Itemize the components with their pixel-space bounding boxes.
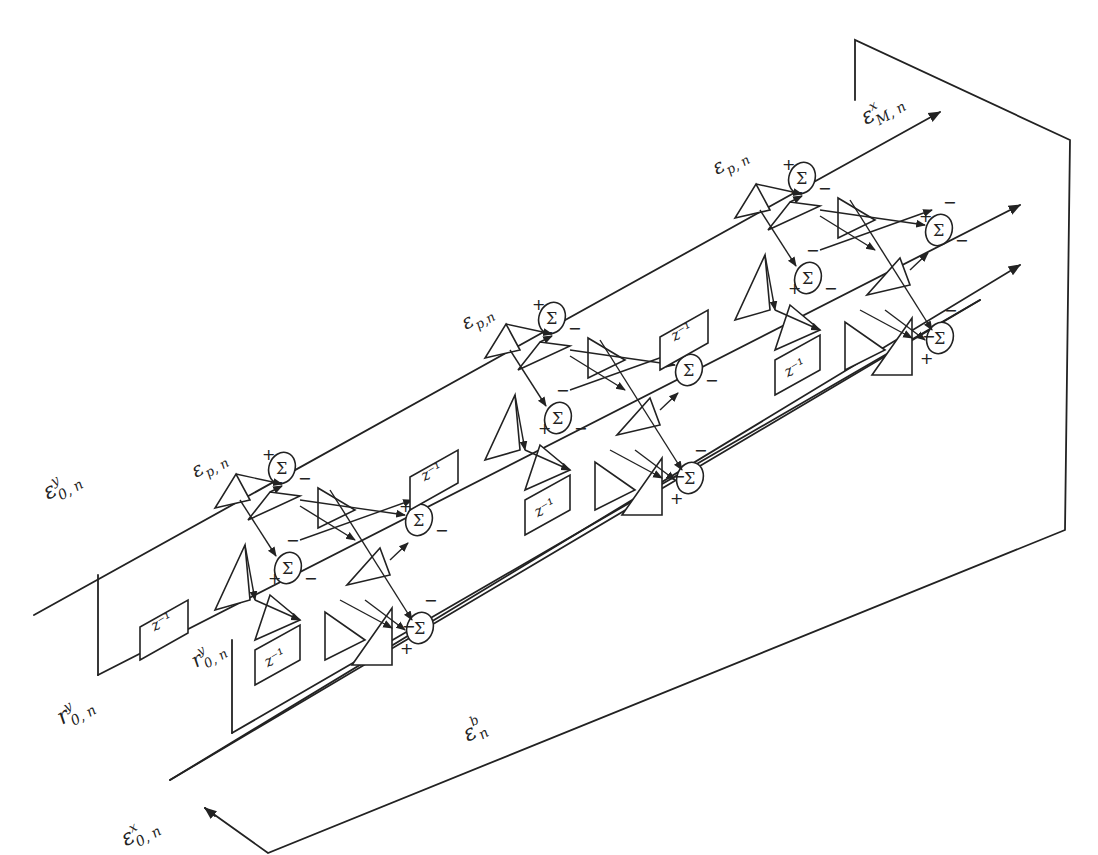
gain-triangle — [215, 474, 250, 508]
label-input-forward-x: εx0, n — [115, 809, 163, 855]
label-output-forward-x: εxM, n — [856, 85, 909, 134]
label-input-backward-y: ry0, n — [52, 688, 99, 733]
gain-triangle — [485, 395, 520, 460]
gain-triangle — [485, 324, 520, 358]
minus-sign: − — [672, 467, 685, 486]
sigma-label: Σ — [802, 269, 813, 288]
gain-triangle — [735, 255, 770, 320]
gain-triangle — [325, 612, 365, 660]
sigma-label: Σ — [413, 511, 424, 530]
minus-sign: − — [806, 241, 819, 260]
minus-sign: − — [556, 381, 569, 400]
minus-sign: − — [943, 193, 956, 212]
label-stage-1-error: εp, n — [187, 444, 232, 486]
gain-triangle — [617, 398, 660, 435]
gain-triangle — [215, 545, 250, 610]
label-backward-error: εbn — [457, 711, 492, 749]
sum-node: Σ+−− — [920, 301, 958, 368]
sigma-label: Σ — [933, 221, 944, 240]
signal-wire — [300, 500, 412, 540]
plus-sign: + — [262, 445, 275, 464]
frame-return-arrow — [205, 808, 215, 816]
lattice-stages: Σ+−−Σ+−−Σ+−−Σ+−−z⁻¹Σ+−−Σ+−−Σ+−−Σ+−−z⁻¹z⁻… — [215, 155, 968, 685]
label-stage-3-error: εp, n — [708, 141, 753, 183]
gain-triangle — [347, 548, 390, 585]
signal-wire — [660, 393, 678, 410]
minus-sign: − — [286, 531, 299, 550]
plus-sign: + — [782, 155, 795, 174]
minus-sign: − — [574, 419, 587, 438]
sum-node: Σ+−− — [262, 445, 311, 492]
sigma-label: Σ — [684, 469, 695, 488]
sum-node: Σ+−− — [400, 591, 438, 658]
plus-sign: + — [268, 569, 281, 588]
sum-node: Σ+−− — [268, 531, 317, 588]
sigma-label: Σ — [552, 409, 563, 428]
sum-node: Σ+−− — [538, 381, 587, 438]
plus-sign: + — [538, 419, 551, 438]
minus-sign: − — [304, 569, 317, 588]
plus-sign: + — [788, 279, 801, 298]
right-frame — [205, 40, 1070, 853]
minus-sign: − — [818, 179, 831, 198]
label-inner-backward-y: ry0, n — [186, 634, 230, 676]
minus-sign: − — [694, 441, 707, 460]
sum-node: Σ+−− — [788, 241, 837, 298]
gain-triangle — [248, 492, 300, 520]
minus-sign: − — [824, 279, 837, 298]
minus-sign: − — [705, 371, 718, 390]
stage-3: Σ+−−Σ+−−Σ+−−Σ+−−z⁻¹z⁻¹ — [660, 155, 968, 395]
sigma-label: Σ — [414, 619, 425, 638]
main-signal-lines — [34, 40, 1070, 853]
plus-sign: + — [532, 295, 545, 314]
minus-sign: − — [402, 617, 415, 636]
signal-wire — [390, 543, 408, 560]
sigma-label: Σ — [282, 559, 293, 578]
gain-triangle — [845, 322, 885, 370]
plus-sign: + — [670, 489, 683, 508]
sum-node: Σ+−− — [919, 193, 968, 250]
gain-triangle — [768, 202, 820, 230]
sum-node: Σ+−− — [670, 441, 708, 508]
gain-triangle — [518, 342, 570, 370]
sigma-label: Σ — [683, 361, 694, 380]
gain-triangle — [735, 184, 770, 218]
sigma-label: Σ — [934, 329, 945, 348]
delay-block-input: z⁻¹ — [140, 600, 188, 660]
signal-wire — [820, 210, 932, 250]
plus-sign: + — [920, 349, 933, 368]
minus-sign: − — [424, 591, 437, 610]
minus-sign: − — [298, 469, 311, 488]
minus-sign: − — [955, 231, 968, 250]
sum-node: Σ+−− — [532, 295, 581, 342]
minus-sign: − — [568, 319, 581, 338]
signal-labels: εy0, n ry0, n εx0, n εbn εxM, n ry0, n ε… — [38, 85, 909, 855]
label-stage-2-error: εp,n — [457, 298, 498, 338]
sum-node: Σ+−− — [782, 155, 831, 202]
minus-sign: − — [944, 301, 957, 320]
minus-sign: − — [435, 521, 448, 540]
label-input-forward-y: εy0, n — [38, 463, 86, 509]
plus-sign: + — [400, 639, 413, 658]
minus-sign: − — [922, 327, 935, 346]
lattice-filter-diagram: z⁻¹ Σ+−−Σ+−−Σ+−−Σ+−−z⁻¹Σ+−−Σ+−−Σ+−−Σ+−−z… — [0, 0, 1098, 855]
